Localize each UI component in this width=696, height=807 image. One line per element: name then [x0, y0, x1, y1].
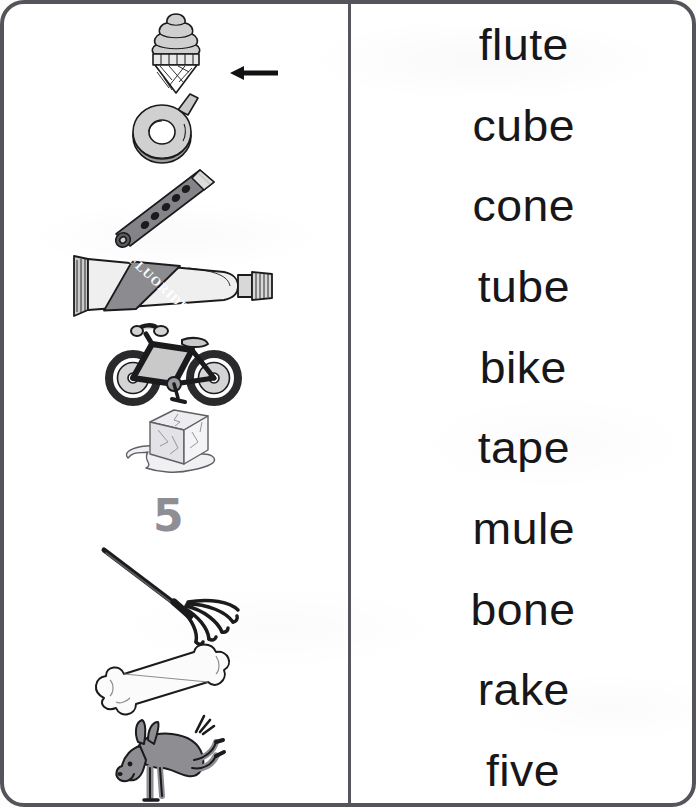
- word-item: cube: [472, 103, 575, 148]
- picture-cell-tube[interactable]: FLUORIDE: [8, 248, 348, 326]
- word-item: tape: [477, 425, 569, 470]
- word-item: bike: [480, 345, 567, 390]
- word-row[interactable]: cone: [351, 165, 696, 246]
- word-row[interactable]: cube: [351, 85, 696, 166]
- picture-cell-cone[interactable]: [8, 8, 348, 96]
- ice-cube-icon: [112, 402, 232, 482]
- numeral-five-glyph: 5: [153, 490, 184, 541]
- word-row[interactable]: flute: [351, 4, 696, 85]
- word-row[interactable]: bike: [351, 327, 696, 408]
- flute-icon: [104, 164, 228, 254]
- picture-cell-mule[interactable]: [8, 712, 348, 807]
- word-row[interactable]: rake: [351, 650, 696, 731]
- word-item: five: [486, 748, 560, 793]
- word-item: flute: [478, 22, 568, 67]
- bicycle-icon: [86, 320, 256, 406]
- word-row[interactable]: tube: [351, 246, 696, 327]
- word-item: rake: [477, 667, 569, 712]
- word-row[interactable]: five: [351, 730, 696, 807]
- picture-cell-cube[interactable]: [8, 402, 348, 482]
- word-row[interactable]: tape: [351, 408, 696, 489]
- picture-column: FLUORIDE: [8, 4, 348, 807]
- word-row[interactable]: bone: [351, 569, 696, 650]
- rake-icon: [66, 544, 246, 648]
- ice-cream-cone-icon: [136, 8, 222, 96]
- mule-icon: [92, 712, 232, 807]
- word-row[interactable]: mule: [351, 488, 696, 569]
- word-item: cone: [472, 183, 575, 228]
- word-item: tube: [477, 264, 569, 309]
- arrow-left-icon: [230, 63, 280, 83]
- word-item: mule: [472, 506, 575, 551]
- picture-cell-five[interactable]: 5: [8, 484, 348, 546]
- toothpaste-tube-icon: FLUORIDE: [48, 248, 278, 326]
- word-item: bone: [471, 587, 576, 632]
- picture-cell-rake[interactable]: [8, 544, 348, 648]
- picture-cell-tape[interactable]: [8, 88, 348, 172]
- tape-roll-icon: [126, 88, 210, 172]
- word-column: flute cube cone tube bike tape mule bone…: [351, 4, 696, 807]
- picture-cell-flute[interactable]: [8, 164, 348, 254]
- picture-cell-bike[interactable]: [8, 320, 348, 406]
- worksheet-page: FLUORIDE: [0, 0, 696, 807]
